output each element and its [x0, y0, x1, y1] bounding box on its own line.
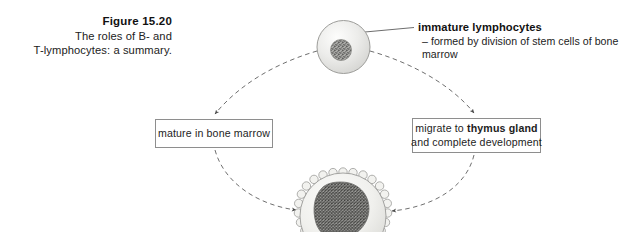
cell-nucleus-immature [331, 40, 352, 61]
immature-lymphocyte-cell [317, 21, 370, 74]
arrow-bone-marrow-to-mature-cell [215, 150, 296, 210]
arrow-immature-to-bone-marrow [215, 51, 317, 114]
figure-container: Figure 15.20 The roles of B- and T-lymph… [0, 0, 633, 232]
arrow-immature-to-thymus [370, 51, 474, 113]
arrow-thymus-to-mature-cell [392, 155, 474, 211]
cell-nucleus-mature [314, 182, 369, 232]
diagram-canvas [0, 0, 633, 232]
mature-lymphocyte-cell [294, 168, 392, 232]
